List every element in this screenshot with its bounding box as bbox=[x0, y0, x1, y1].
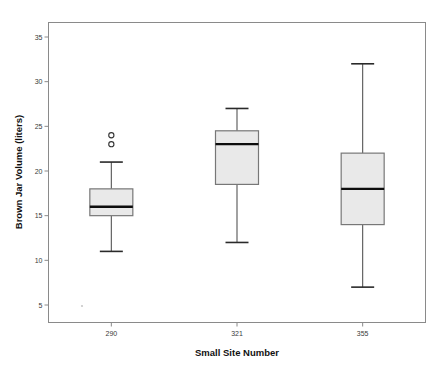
y-tick-label: 15 bbox=[35, 212, 43, 219]
y-axis-title: Brown Jar Volume (liters) bbox=[13, 115, 24, 229]
y-tick-label: 5 bbox=[39, 302, 43, 309]
box-iqr bbox=[216, 131, 259, 185]
x-axis-title: Small Site Number bbox=[195, 347, 279, 358]
box-plot-chart: 5101520253035 290321355 Brown Jar Volume… bbox=[0, 0, 441, 369]
chart-canvas: 5101520253035 290321355 Brown Jar Volume… bbox=[0, 0, 441, 369]
y-tick-label: 10 bbox=[35, 257, 43, 264]
x-tick-label-321: 321 bbox=[231, 330, 243, 337]
stray-speck bbox=[81, 305, 83, 307]
x-tick-label-290: 290 bbox=[105, 330, 117, 337]
x-tick-label-355: 355 bbox=[357, 330, 369, 337]
y-tick-label: 30 bbox=[35, 78, 43, 85]
y-tick-label: 20 bbox=[35, 168, 43, 175]
y-tick-label: 35 bbox=[35, 34, 43, 41]
y-tick-label: 25 bbox=[35, 123, 43, 130]
box-iqr bbox=[90, 189, 133, 216]
